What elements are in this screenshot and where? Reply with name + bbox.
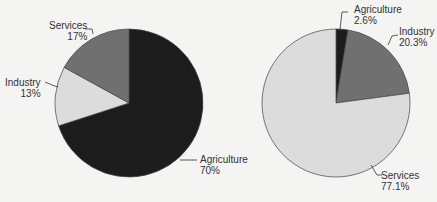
leader-right-industry — [388, 35, 398, 45]
leader-left-industry — [45, 82, 58, 87]
leader-right-agriculture — [340, 12, 348, 29]
label-left-services: Services 17% — [49, 20, 87, 42]
chart-stage: Services 17% Industry 13% Agriculture 70… — [0, 0, 437, 202]
label-left-industry: Industry 13% — [5, 77, 41, 99]
pie-chart-right — [262, 29, 410, 177]
pie-chart-left — [55, 29, 203, 177]
label-right-agriculture: Agriculture 2.6% — [354, 4, 402, 26]
label-right-services: Services 77.1% — [381, 170, 419, 192]
label-right-industry: Industry 20.3% — [399, 26, 435, 48]
label-left-agriculture: Agriculture 70% — [200, 154, 248, 176]
